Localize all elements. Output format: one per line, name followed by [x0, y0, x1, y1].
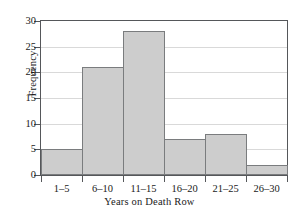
x-tick-mark — [164, 176, 165, 182]
bar — [82, 67, 124, 175]
bar-series — [41, 21, 287, 175]
bar — [246, 165, 288, 175]
x-tick-mark — [82, 176, 83, 182]
y-tick-label: 30 — [0, 16, 36, 27]
bar — [164, 139, 206, 175]
y-tick-label: 20 — [0, 67, 36, 78]
x-axis-title: Years on Death Row — [0, 196, 299, 207]
bar — [41, 149, 83, 175]
x-tick-mark — [205, 176, 206, 182]
x-tick-mark — [123, 176, 124, 182]
bar — [205, 134, 247, 175]
y-tick-label: 0 — [0, 170, 36, 181]
y-tick-label: 15 — [0, 93, 36, 104]
x-tick-label: 26–30 — [237, 183, 297, 194]
x-tick-mark — [41, 176, 42, 182]
histogram-chart: Frequency 051015202530 1–56–1011–1516–20… — [0, 0, 299, 212]
bar — [123, 31, 165, 175]
y-tick-label: 5 — [0, 144, 36, 155]
x-tick-mark — [287, 176, 288, 182]
y-tick-label: 25 — [0, 41, 36, 52]
x-tick-mark — [246, 176, 247, 182]
y-tick-label: 10 — [0, 118, 36, 129]
